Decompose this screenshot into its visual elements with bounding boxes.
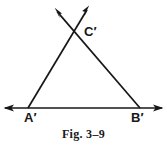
left-ray-segment [28,10,87,108]
vertex-label-a-prime: A′ [24,111,37,124]
vertex-label-c-prime: C′ [84,25,97,38]
figure-caption: Fig. 3–9 [0,128,167,141]
figure-container: C′ A′ B′ Fig. 3–9 [0,0,167,150]
vertex-label-b-prime: B′ [131,111,144,124]
right-ray-segment [57,12,140,108]
